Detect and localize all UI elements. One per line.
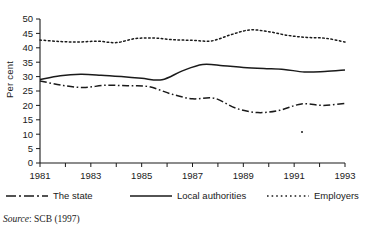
svg-text:1981: 1981 xyxy=(29,170,50,181)
series-line-the-state xyxy=(40,81,345,113)
legend-swatch-dash-dot-icon xyxy=(6,191,48,201)
svg-text:1983: 1983 xyxy=(80,170,101,181)
legend-item-the-state: The state xyxy=(6,190,93,201)
svg-text:25: 25 xyxy=(22,85,33,96)
svg-text:50: 50 xyxy=(22,13,33,24)
legend-item-local-authorities: Local authorities xyxy=(130,190,246,201)
chart-legend: The state Local authorities Employers xyxy=(0,190,376,210)
svg-text:1993: 1993 xyxy=(334,170,355,181)
svg-text:0: 0 xyxy=(28,157,33,168)
svg-text:15: 15 xyxy=(22,114,33,125)
legend-label-local-authorities: Local authorities xyxy=(177,190,246,201)
svg-text:5: 5 xyxy=(28,143,33,154)
svg-text:10: 10 xyxy=(22,129,33,140)
source-rest: : SCB (1997) xyxy=(29,214,80,224)
svg-text:1991: 1991 xyxy=(284,170,305,181)
legend-swatch-solid-icon xyxy=(130,191,172,201)
x-axis-ticks: 1981198319851987198919911993 xyxy=(29,163,355,181)
svg-text:35: 35 xyxy=(22,57,33,68)
series-line-employers xyxy=(40,30,345,43)
svg-text:30: 30 xyxy=(22,71,33,82)
svg-text:1985: 1985 xyxy=(131,170,152,181)
legend-item-employers: Employers xyxy=(267,190,359,201)
figure: Per cent 05101520253035404550 1981198319… xyxy=(0,0,376,235)
source-word: Source xyxy=(3,214,29,224)
y-axis-ticks: 05101520253035404550 xyxy=(22,13,40,168)
svg-text:1989: 1989 xyxy=(233,170,254,181)
svg-text:20: 20 xyxy=(22,100,33,111)
stray-mark xyxy=(301,131,303,133)
data-series-group xyxy=(40,30,345,113)
source-note: Source: SCB (1997) xyxy=(3,214,80,224)
svg-text:45: 45 xyxy=(22,28,33,39)
line-chart-plot: 05101520253035404550 1981198319851987198… xyxy=(0,0,376,190)
legend-label-the-state: The state xyxy=(53,190,93,201)
svg-text:1987: 1987 xyxy=(182,170,203,181)
series-line-local-authorities xyxy=(40,64,345,80)
legend-label-employers: Employers xyxy=(314,190,359,201)
svg-text:40: 40 xyxy=(22,42,33,53)
legend-swatch-dotted-icon xyxy=(267,191,309,201)
